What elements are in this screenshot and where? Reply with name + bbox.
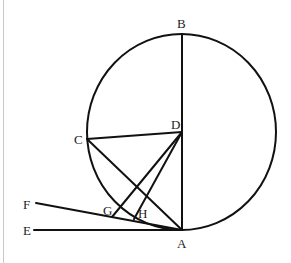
label-C: C (74, 132, 83, 147)
diagram-canvas: B D C F G H E A (0, 0, 291, 263)
label-F: F (23, 197, 30, 212)
label-A: A (177, 236, 187, 251)
label-H: H (138, 206, 147, 221)
geometry-diagram: B D C F G H E A (0, 0, 291, 263)
segment-DG (112, 132, 182, 217)
label-B: B (177, 16, 186, 31)
label-G: G (103, 203, 112, 218)
left-border (3, 0, 4, 263)
segment-CD (87, 132, 182, 139)
label-D: D (171, 117, 180, 132)
label-E: E (23, 223, 31, 238)
